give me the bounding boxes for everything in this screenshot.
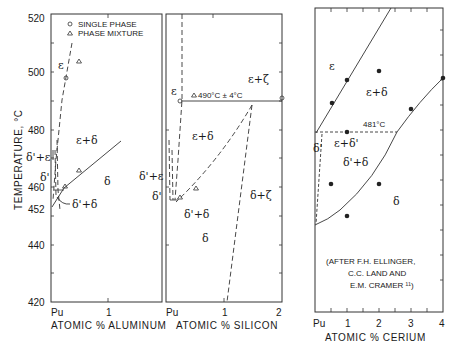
panel-cerium: 481°C ε ε+δ δ' ε+δ' δ'+δ δ (AFTER F.H. E… xyxy=(313,8,445,343)
svg-text:ε: ε xyxy=(171,85,177,98)
svg-text:ε+δ: ε+δ xyxy=(76,134,98,147)
svg-text:δ: δ xyxy=(393,195,400,208)
svg-text:δ': δ' xyxy=(313,142,323,155)
legend-triangle-icon xyxy=(68,31,73,35)
svg-text:Pu: Pu xyxy=(166,307,178,318)
svg-text:ε+δ: ε+δ xyxy=(192,130,214,143)
svg-text:δ+ζ: δ+ζ xyxy=(250,189,272,202)
svg-text:ε+ζ: ε+ζ xyxy=(248,73,269,86)
annotation-481c: 481°C xyxy=(363,120,386,129)
svg-text:ε+δ: ε+δ xyxy=(366,86,388,99)
svg-text:δ': δ' xyxy=(152,190,162,203)
svg-text:ε: ε xyxy=(329,60,335,73)
svg-text:452: 452 xyxy=(28,204,45,215)
x-axis-label-silicon: ATOMIC % SILICON xyxy=(176,320,278,331)
svg-text:Pu: Pu xyxy=(51,307,63,318)
panel-silicon: 490°C ± 4°C ε ε+ζ ε+δ δ'+ε δ' δ'+δ δ δ+ζ… xyxy=(139,14,284,331)
legend-single-phase: SINGLE PHASE xyxy=(78,20,137,29)
svg-text:δ'+δ: δ'+δ xyxy=(184,208,210,221)
svg-text:1: 1 xyxy=(106,307,112,318)
source-note-line-1: (AFTER F.H. ELLINGER, xyxy=(326,257,415,266)
svg-text:420: 420 xyxy=(28,297,45,308)
legend-circle-icon xyxy=(68,22,72,26)
svg-text:480: 480 xyxy=(28,125,45,136)
svg-text:440: 440 xyxy=(28,240,45,251)
source-note-line-2: C.C. LAND AND xyxy=(348,269,406,278)
svg-text:ε+δ': ε+δ' xyxy=(334,137,359,150)
x-axis-label-aluminum: ATOMIC % ALUMINUM xyxy=(51,320,166,331)
svg-text:δ'+ε: δ'+ε xyxy=(139,170,164,183)
svg-text:δ: δ xyxy=(104,175,111,188)
svg-text:3: 3 xyxy=(408,318,414,329)
svg-text:520: 520 xyxy=(28,13,45,24)
svg-text:Pu: Pu xyxy=(313,318,325,329)
svg-text:δ'+ε: δ'+ε xyxy=(26,151,51,164)
svg-text:2: 2 xyxy=(376,318,382,329)
svg-text:4: 4 xyxy=(439,318,445,329)
svg-text:500: 500 xyxy=(28,67,45,78)
svg-text:2: 2 xyxy=(276,307,282,318)
x-axis-label-cerium: ATOMIC % CERIUM xyxy=(325,332,426,343)
svg-text:1: 1 xyxy=(345,318,351,329)
phase-diagram-figure: TEMPERATURE, °C 520 500 480 460 452 440 … xyxy=(0,0,455,348)
legend-phase-mixture: PHASE MIXTURE xyxy=(78,29,143,38)
svg-text:δ'+δ: δ'+δ xyxy=(72,198,98,211)
source-note-line-3: E.M. CRAMER ¹¹) xyxy=(350,281,414,290)
svg-text:δ'+δ: δ'+δ xyxy=(343,156,369,169)
svg-text:δ': δ' xyxy=(40,171,50,184)
svg-text:1: 1 xyxy=(222,307,228,318)
svg-text:δ: δ xyxy=(202,232,209,245)
y-axis-label: TEMPERATURE, °C xyxy=(13,109,24,210)
annotation-490c: 490°C ± 4°C xyxy=(198,91,243,100)
svg-text:ε: ε xyxy=(58,59,64,72)
